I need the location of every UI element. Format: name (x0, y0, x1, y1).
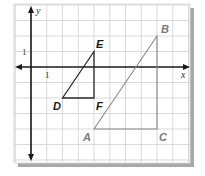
vertex-label-b: B (161, 23, 169, 35)
vertex-label-c: C (159, 131, 168, 143)
vertex-label-e: E (96, 38, 104, 50)
y-axis-label: y (35, 5, 41, 16)
coordinate-plane-figure: y x 1 1 E D F B A C (0, 0, 205, 176)
x-axis-label: x (180, 69, 186, 80)
coordinate-plane-svg: y x 1 1 E D F B A C (0, 0, 205, 176)
y-tick-label-1: 1 (22, 47, 27, 57)
vertex-label-f: F (96, 100, 103, 112)
x-tick-label-1: 1 (45, 70, 50, 80)
vertex-label-d: D (53, 100, 61, 112)
vertex-label-a: A (82, 131, 91, 143)
